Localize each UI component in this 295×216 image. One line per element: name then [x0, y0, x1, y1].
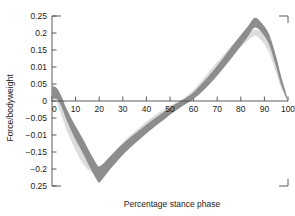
x-tick-label: 50 [165, 104, 175, 114]
x-axis-title: Percentage stance phase [124, 199, 221, 209]
x-tick-label: 10 [71, 104, 81, 114]
y-axis-title: Force/bodyweight [5, 74, 15, 142]
x-tick-label: 40 [142, 104, 152, 114]
y-tick-label: 0 [42, 96, 47, 106]
y-tick-label: 0.15 [30, 45, 47, 55]
x-tick-label: 80 [236, 104, 246, 114]
x-tick-label: 70 [212, 104, 222, 114]
y-tick-label: 0.25 [30, 11, 47, 21]
y-tick-label: −0.05 [25, 113, 47, 123]
y-tick-label: −0.15 [25, 147, 47, 157]
y-tick-label: 0.05 [30, 79, 47, 89]
chart-figure: 0102030405060708090100 0.250.20.150.010.… [0, 0, 295, 216]
y-tick-label: 0.2 [35, 28, 47, 38]
x-tick-label: 0 [52, 104, 57, 114]
x-tick-label: 60 [189, 104, 199, 114]
y-tick-label: −0.2 [30, 164, 47, 174]
x-tick-label: 30 [118, 104, 128, 114]
y-tick-label: 0.01 [30, 62, 47, 72]
x-tick-label: 20 [94, 104, 104, 114]
x-tick-label: 100 [281, 104, 295, 114]
y-tick-label: −0.01 [25, 130, 47, 140]
x-tick-label: 90 [260, 104, 270, 114]
force-bodyweight-chart: 0102030405060708090100 0.250.20.150.010.… [0, 0, 295, 216]
y-tick-label: 0.25 [30, 181, 47, 191]
